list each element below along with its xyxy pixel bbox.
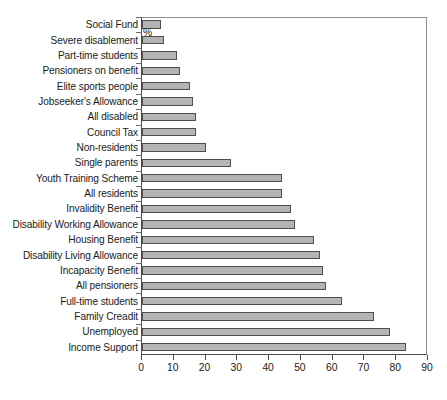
x-axis-title: % — [143, 27, 152, 38]
category-label: Jobseeker's Allowance — [0, 96, 138, 107]
bar — [142, 82, 190, 90]
bar — [142, 220, 295, 228]
bar-track — [142, 247, 320, 262]
bar — [142, 266, 323, 274]
x-axis-tick — [173, 355, 174, 360]
y-axis-tick — [136, 32, 142, 33]
y-axis-tick — [136, 17, 142, 18]
category-label: Unemployed — [0, 326, 138, 337]
bar-track — [142, 78, 190, 93]
bar-track — [142, 309, 374, 324]
category-label: Disability Working Allowance — [0, 219, 138, 230]
category-label: Full-time students — [0, 296, 138, 307]
bar-row: Severe disablement — [0, 32, 447, 47]
y-axis-tick — [136, 63, 142, 64]
category-label: Pensioners on benefit — [0, 65, 138, 76]
bar-row: Single parents — [0, 155, 447, 170]
bar — [142, 328, 390, 336]
category-label: Single parents — [0, 157, 138, 168]
bar — [142, 343, 406, 351]
category-label: Invalidity Benefit — [0, 203, 138, 214]
bar-track — [142, 201, 291, 216]
bar-row: All disabled — [0, 109, 447, 124]
category-label: Family Creadit — [0, 311, 138, 322]
category-label: Part-time students — [0, 50, 138, 61]
x-axis-tick-label: 70 — [358, 362, 369, 373]
x-axis: 0102030405060708090 — [141, 355, 427, 399]
category-label: Council Tax — [0, 127, 138, 138]
bar — [142, 51, 177, 59]
category-label: Disability Living Allowance — [0, 250, 138, 261]
category-label: Non-residents — [0, 142, 138, 153]
bar-row: Pensioners on benefit — [0, 63, 447, 78]
bar-row: Unemployed — [0, 324, 447, 339]
bar-row: Full-time students — [0, 293, 447, 308]
x-axis-tick — [205, 355, 206, 360]
bar-track — [142, 63, 180, 78]
bar-track — [142, 186, 282, 201]
category-label: Severe disablement — [0, 35, 138, 46]
x-axis-tick — [236, 355, 237, 360]
bar — [142, 236, 314, 244]
bar — [142, 251, 320, 259]
bar — [142, 189, 282, 197]
bar-track — [142, 340, 406, 355]
x-axis-tick-label: 20 — [199, 362, 210, 373]
x-axis-tick — [427, 355, 428, 360]
x-axis-tick — [363, 355, 364, 360]
bar-track — [142, 232, 314, 247]
bar-row: Jobseeker's Allowance — [0, 94, 447, 109]
bar-row: All residents — [0, 186, 447, 201]
bar — [142, 174, 282, 182]
bar-row: Disability Working Allowance — [0, 217, 447, 232]
x-axis-tick — [268, 355, 269, 360]
bar-row: Disability Living Allowance — [0, 247, 447, 262]
y-axis-tick — [136, 263, 142, 264]
x-axis-tick-label: 60 — [326, 362, 337, 373]
bar-track — [142, 48, 177, 63]
bar — [142, 297, 342, 305]
bar-row: Incapacity Benefit — [0, 263, 447, 278]
bar — [142, 282, 326, 290]
category-label: Housing Benefit — [0, 234, 138, 245]
x-axis-tick-label: 0 — [138, 362, 144, 373]
x-axis-tick-label: 90 — [421, 362, 432, 373]
category-label: Youth Training Scheme — [0, 173, 138, 184]
bar-row: Housing Benefit — [0, 232, 447, 247]
category-label: All disabled — [0, 111, 138, 122]
bar-row: Income Support — [0, 340, 447, 355]
bar-row: Social Fund — [0, 17, 447, 32]
x-axis-tick — [332, 355, 333, 360]
bar-row: Youth Training Scheme — [0, 171, 447, 186]
y-axis-tick — [136, 48, 142, 49]
category-label: All residents — [0, 188, 138, 199]
bar-track — [142, 171, 282, 186]
y-axis-tick — [136, 155, 142, 156]
bar-track — [142, 125, 196, 140]
bar-track — [142, 94, 193, 109]
y-axis-tick — [136, 125, 142, 126]
x-axis-tick — [141, 355, 142, 360]
bar — [142, 128, 196, 136]
y-axis-tick — [136, 278, 142, 279]
y-axis-tick — [136, 340, 142, 341]
x-axis-tick — [395, 355, 396, 360]
bar-row: All pensioners — [0, 278, 447, 293]
x-axis-tick-label: 50 — [294, 362, 305, 373]
category-label: All pensioners — [0, 280, 138, 291]
y-axis-tick — [136, 232, 142, 233]
bar-track — [142, 293, 342, 308]
y-axis-tick — [136, 247, 142, 248]
y-axis-tick — [136, 109, 142, 110]
y-axis-tick — [136, 201, 142, 202]
bar — [142, 205, 291, 213]
bar — [142, 143, 206, 151]
y-axis-tick — [136, 186, 142, 187]
bar-row: Family Creadit — [0, 309, 447, 324]
category-label: Elite sports people — [0, 81, 138, 92]
y-axis-tick — [136, 171, 142, 172]
category-label: Income Support — [0, 342, 138, 353]
bar-track — [142, 278, 326, 293]
y-axis-tick — [136, 140, 142, 141]
bar-row: Part-time students — [0, 48, 447, 63]
